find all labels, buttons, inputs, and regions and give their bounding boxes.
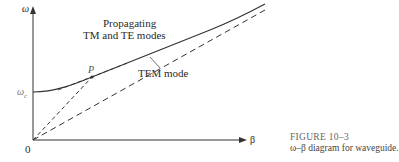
cutoff-frequency-label: ωc: [17, 86, 27, 102]
figure-caption-text: ω–β diagram for waveguide.: [290, 143, 399, 154]
x-axis-label: β: [250, 134, 255, 146]
point-p-label: P: [88, 64, 94, 76]
origin-label: 0: [25, 143, 31, 155]
curve-label-line2: TM and TE modes: [83, 29, 166, 41]
y-axis-arrow-icon: [30, 6, 36, 14]
y-axis-label: ω: [22, 3, 29, 15]
figure-caption: FIGURE 10–3 ω–β diagram for waveguide.: [290, 132, 399, 154]
curve-label-line1: Propagating: [103, 17, 156, 29]
origin-to-p-line: [33, 77, 92, 140]
x-axis-arrow-icon: [239, 137, 247, 143]
figure-number: FIGURE 10–3: [290, 132, 399, 143]
tem-mode-label: TEM mode: [138, 67, 188, 79]
